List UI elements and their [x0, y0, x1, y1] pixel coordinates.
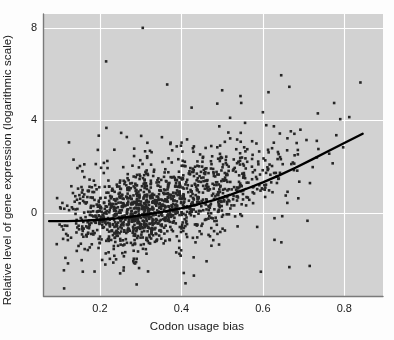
- x-tick-label: 0.6: [243, 302, 283, 314]
- y-tick-label: 8: [13, 21, 37, 33]
- y-axis-title: Relative level of gene expression (logar…: [0, 0, 14, 340]
- y-tick-label: 4: [13, 113, 37, 125]
- y-tick-label: 0: [13, 206, 37, 218]
- scatter-plot-figure: Codon usage bias Relative level of gene …: [0, 0, 394, 340]
- x-axis-title: Codon usage bias: [0, 320, 394, 332]
- x-tick-label: 0.2: [80, 302, 120, 314]
- x-tick-label: 0.4: [161, 302, 201, 314]
- x-tick-label: 0.8: [324, 302, 364, 314]
- plot-canvas: [0, 0, 394, 340]
